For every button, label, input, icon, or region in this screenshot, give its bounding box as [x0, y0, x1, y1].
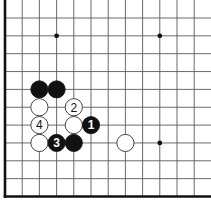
- white-stone: [117, 134, 134, 151]
- black-stone: [31, 81, 48, 98]
- white-stone-icon: [31, 134, 48, 151]
- star-point-icon: [54, 33, 59, 38]
- white-stone-icon: [117, 134, 134, 151]
- stones: 2413: [31, 81, 134, 152]
- white-stone-move-4: 4: [31, 117, 48, 134]
- move-number-label: 1: [88, 118, 95, 132]
- move-number-label: 4: [36, 118, 43, 132]
- black-stone-icon: [31, 81, 48, 98]
- black-stone: [48, 81, 65, 98]
- white-stone: [31, 134, 48, 151]
- white-stone: [31, 99, 48, 116]
- white-stone: [65, 117, 82, 134]
- white-stone-icon: [31, 99, 48, 116]
- go-board: 2413: [0, 0, 211, 201]
- white-stone-move-2: 2: [65, 99, 82, 116]
- black-stone-icon: [48, 81, 65, 98]
- move-number-label: 3: [53, 136, 60, 150]
- move-number-label: 2: [70, 101, 77, 115]
- star-point-icon: [157, 141, 162, 146]
- star-point-icon: [157, 33, 162, 38]
- board-edges: [4, 0, 211, 198]
- white-stone-icon: [65, 117, 82, 134]
- black-stone-move-3: 3: [48, 134, 65, 151]
- black-stone-icon: [65, 134, 82, 151]
- board-grid: [5, 0, 211, 197]
- black-stone: [65, 134, 82, 151]
- black-stone-move-1: 1: [82, 117, 99, 134]
